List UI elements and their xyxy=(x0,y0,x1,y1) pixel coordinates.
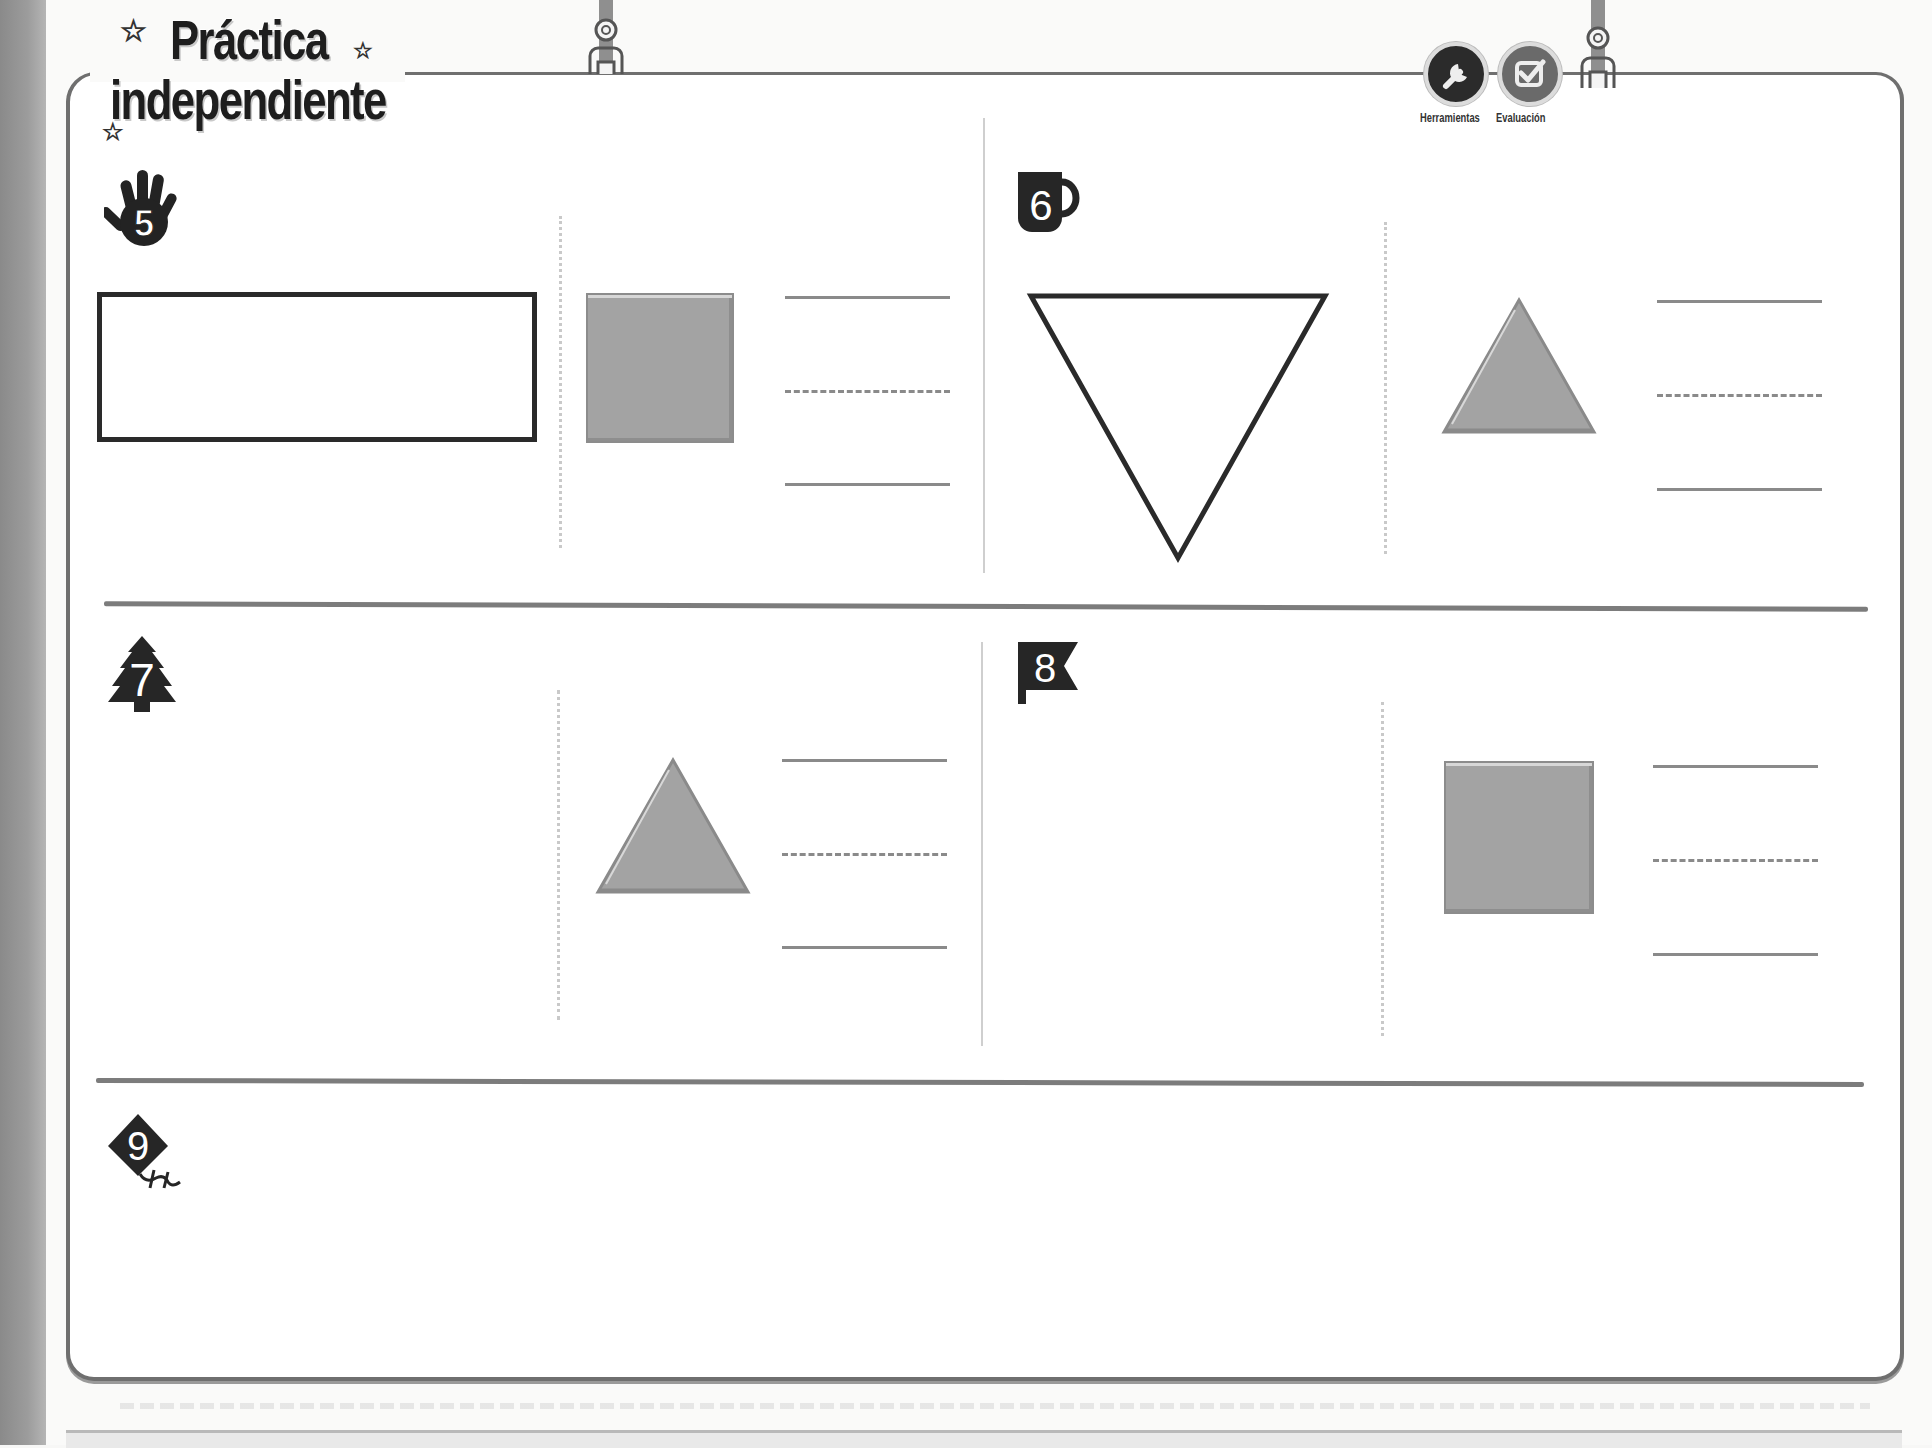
tool-label-herramientas: Herramientas xyxy=(1420,110,1480,125)
tool-button-evaluacion[interactable] xyxy=(1498,42,1562,106)
answer-line[interactable] xyxy=(1653,765,1818,768)
next-page-edge xyxy=(66,1430,1902,1448)
svg-text:8: 8 xyxy=(1034,646,1056,690)
answer-line[interactable] xyxy=(785,483,950,486)
answer-midline[interactable] xyxy=(782,853,947,856)
svg-text:7: 7 xyxy=(129,654,155,706)
exercise-5-hand-icon: 5 xyxy=(104,162,184,252)
exercise-6-inverted-triangle-shape xyxy=(1026,292,1330,564)
exercise-6-mug-icon: 6 xyxy=(1016,168,1086,238)
title-line-2: independiente xyxy=(110,72,386,128)
column-divider xyxy=(981,642,983,1046)
wrench-icon xyxy=(1428,46,1484,102)
exercise-6-model-triangle xyxy=(1440,296,1598,436)
page-title: ☆ Práctica ☆ independiente ☆ xyxy=(108,8,448,138)
svg-text:9: 9 xyxy=(127,1124,149,1168)
dotted-divider xyxy=(559,216,562,548)
star-icon: ☆ xyxy=(102,120,124,144)
answer-line[interactable] xyxy=(782,946,947,949)
exercise-7-model-triangle xyxy=(594,756,752,896)
page-edge-strip xyxy=(0,0,46,1445)
dotted-divider xyxy=(1384,222,1387,554)
column-divider xyxy=(983,118,985,573)
binder-clip-icon xyxy=(584,0,628,78)
answer-line[interactable] xyxy=(782,759,947,762)
exercise-9-kite-icon: 9 xyxy=(104,1110,184,1194)
answer-line[interactable] xyxy=(1653,953,1818,956)
exercise-5-rectangle-shape xyxy=(97,292,537,442)
star-icon: ☆ xyxy=(353,40,373,62)
header-tools: Herramientas Evaluación xyxy=(1420,40,1620,130)
svg-text:6: 6 xyxy=(1029,182,1052,229)
answer-line[interactable] xyxy=(1657,488,1822,491)
answer-midline[interactable] xyxy=(785,390,950,393)
exercise-8-model-square xyxy=(1444,761,1594,914)
bleed-through-text xyxy=(120,1403,1870,1409)
exercise-5-model-square xyxy=(586,293,734,443)
answer-line[interactable] xyxy=(785,296,950,299)
exercise-frame xyxy=(66,72,1904,1381)
exercise-7-pine-tree-icon: 7 xyxy=(106,634,178,714)
dotted-divider xyxy=(557,690,560,1020)
dotted-divider xyxy=(1381,702,1384,1036)
title-line-1: Práctica xyxy=(170,12,328,68)
tool-label-evaluacion: Evaluación xyxy=(1496,110,1545,125)
star-icon: ☆ xyxy=(120,16,147,46)
answer-midline[interactable] xyxy=(1657,394,1822,397)
answer-line[interactable] xyxy=(1657,300,1822,303)
tool-button-herramientas[interactable] xyxy=(1424,42,1488,106)
svg-text:5: 5 xyxy=(134,203,154,244)
answer-midline[interactable] xyxy=(1653,859,1818,862)
exercise-8-flag-icon: 8 xyxy=(1016,640,1082,706)
checkbox-check-icon xyxy=(1502,46,1558,102)
